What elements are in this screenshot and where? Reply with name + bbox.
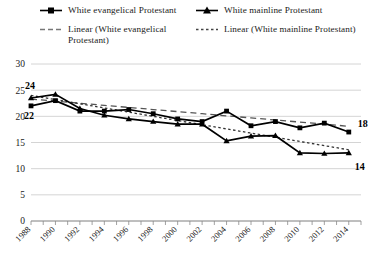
- trend-lines: [31, 95, 349, 149]
- data-point-label: 22: [24, 110, 34, 121]
- legend-item-white-evangelical-protestant: White evangelical Protestant: [40, 5, 190, 16]
- x-axis-tick-label: 2010: [282, 224, 301, 243]
- data-point-marker: [273, 119, 278, 124]
- data-point-marker: [126, 107, 131, 112]
- data-point-marker: [297, 125, 302, 130]
- dotted-line-icon: [196, 24, 218, 35]
- legend-item-linear-white-evangelical-protestant: Linear (White evangelical Protestant): [40, 24, 190, 46]
- triangle-marker-solid-line-icon: [196, 5, 218, 16]
- legend-item-label: White evangelical Protestant: [68, 5, 176, 16]
- legend-item-linear-white-mainline-protestant: Linear (White mainline Protestant): [196, 24, 356, 35]
- chart-plot-area: 051015202530 198819901992199419961998200…: [0, 56, 378, 275]
- x-axis-tick-label: 1990: [38, 224, 57, 243]
- data-point-marker: [249, 123, 254, 128]
- data-point-marker: [151, 111, 156, 116]
- y-axis-tick-label: 15: [16, 138, 26, 148]
- data-point-marker: [29, 103, 34, 108]
- x-axis-tick-label: 2000: [160, 224, 179, 243]
- data-point-marker: [53, 98, 58, 103]
- chart-legend: White evangelical Protestant White mainl…: [0, 0, 378, 56]
- y-axis-tick-label: 5: [20, 190, 25, 200]
- data-point-marker: [322, 121, 327, 126]
- data-point-marker: [224, 109, 229, 114]
- gridlines: [31, 64, 361, 221]
- x-axis-tick-labels: 1988199019921994199619982000200220042006…: [13, 224, 350, 244]
- x-axis-tick-label: 1988: [13, 224, 32, 243]
- y-axis-tick-label: 10: [16, 164, 26, 174]
- x-axis-tick-label: 2014: [331, 224, 351, 244]
- x-axis-tick-label: 2004: [209, 224, 229, 244]
- legend-item-label: White mainline Protestant: [224, 5, 322, 16]
- x-axis-tick-label: 2008: [258, 224, 277, 243]
- y-axis-tick-label: 25: [16, 86, 26, 96]
- data-point-label: 18: [358, 118, 368, 129]
- data-series-lines: [31, 94, 349, 153]
- x-axis-tick-label: 1998: [135, 224, 154, 243]
- data-point-marker: [175, 117, 180, 122]
- y-axis-tick-labels: 051015202530: [16, 59, 26, 226]
- x-axis-tick-label: 1994: [87, 224, 107, 244]
- legend-item-white-mainline-protestant: White mainline Protestant: [196, 5, 356, 16]
- x-axis-tick-label: 2002: [184, 224, 203, 243]
- legend-item-label: Linear (White evangelical Protestant): [68, 24, 190, 46]
- y-axis-tick-label: 30: [16, 59, 26, 69]
- line-chart-svg: 051015202530 198819901992199419961998200…: [0, 56, 378, 275]
- data-point-label: 24: [25, 80, 35, 91]
- data-point-marker: [346, 130, 351, 135]
- dashed-line-icon: [40, 24, 62, 35]
- data-point-labels: 24221814: [24, 80, 368, 172]
- x-axis-tick-label: 1996: [111, 224, 131, 244]
- chart-root: White evangelical Protestant White mainl…: [0, 0, 378, 275]
- data-point-label: 14: [355, 161, 365, 172]
- legend-item-label: Linear (White mainline Protestant): [224, 24, 356, 35]
- x-axis-tick-label: 1992: [62, 224, 81, 243]
- x-axis-tick-label: 2012: [307, 224, 326, 243]
- square-marker-solid-line-icon: [40, 5, 62, 16]
- data-series-line: [31, 94, 349, 153]
- x-axis-tick-label: 2006: [233, 224, 253, 244]
